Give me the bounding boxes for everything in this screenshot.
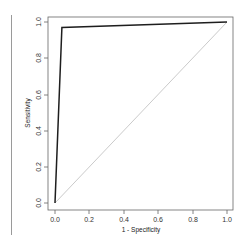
y-axis-title: Sensitivity (24, 98, 32, 128)
y-tick-label: 1.0 (35, 17, 42, 27)
y-tick-label: 0.6 (35, 90, 42, 100)
reference-diagonal (55, 22, 227, 203)
y-tick-label: 0.8 (35, 53, 42, 63)
x-axis-title: 1 - Specificity (122, 226, 161, 234)
y-axis (44, 22, 48, 203)
y-tick-labels: 0.0 0.2 0.4 0.6 0.8 1.0 (35, 17, 42, 208)
y-tick-label: 0.4 (35, 126, 42, 136)
x-tick-label: 0.4 (119, 216, 129, 223)
y-tick-label: 0.2 (35, 162, 42, 172)
x-tick-label: 0.2 (84, 216, 94, 223)
roc-chart: 0.0 0.2 0.4 0.6 0.8 1.0 0.0 0.2 0.4 0.6 … (0, 0, 244, 247)
y-tick-label: 0.0 (35, 198, 42, 208)
x-tick-label: 0.6 (153, 216, 163, 223)
x-axis (55, 210, 227, 214)
x-tick-label: 0.0 (50, 216, 60, 223)
x-tick-label: 1.0 (222, 216, 232, 223)
x-tick-label: 0.8 (188, 216, 198, 223)
x-tick-labels: 0.0 0.2 0.4 0.6 0.8 1.0 (50, 216, 232, 223)
